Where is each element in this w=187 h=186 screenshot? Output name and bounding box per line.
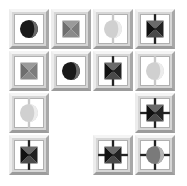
hourglass-icon (96, 138, 130, 172)
hourglass-icon (138, 96, 172, 130)
tile-circle-light[interactable] (9, 93, 49, 133)
hourglass-icon (54, 12, 88, 46)
circle-icon (96, 12, 130, 46)
circle-icon (54, 54, 88, 88)
circle-icon (12, 12, 46, 46)
circle-icon (138, 138, 172, 172)
tile-circle-dark[interactable] (9, 9, 49, 49)
tile-hourglass-mid[interactable] (51, 9, 91, 49)
tile-hourglass-mid[interactable] (9, 51, 49, 91)
tile-circle-light[interactable] (135, 51, 175, 91)
circle-icon (12, 96, 46, 130)
game-board (9, 9, 177, 177)
tile-hourglass-dark[interactable] (93, 135, 133, 175)
tile-circle-light[interactable] (93, 9, 133, 49)
circle-icon (138, 54, 172, 88)
tile-hourglass-dark[interactable] (135, 93, 175, 133)
hourglass-icon (12, 138, 46, 172)
tile-hourglass-dark[interactable] (93, 51, 133, 91)
tile-hourglass-dark[interactable] (9, 135, 49, 175)
tile-hourglass-dark[interactable] (135, 9, 175, 49)
hourglass-icon (138, 12, 172, 46)
hourglass-icon (12, 54, 46, 88)
tile-circle-mid[interactable] (135, 135, 175, 175)
hourglass-icon (96, 54, 130, 88)
tile-circle-dark[interactable] (51, 51, 91, 91)
